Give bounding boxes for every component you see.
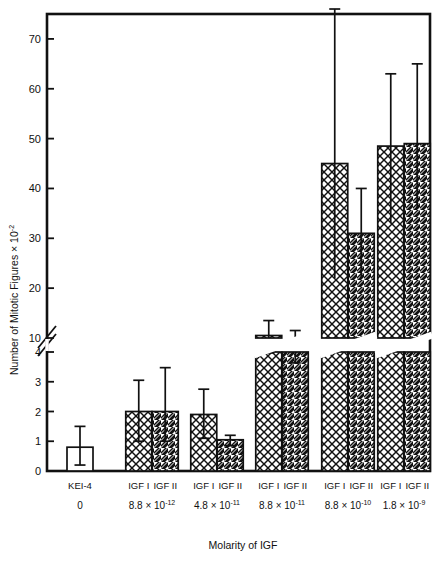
- x-axis-title: Molarity of IGF: [209, 539, 278, 551]
- y-tick-label: 50: [29, 133, 41, 145]
- group-molarity-label: 8.8 × 10-12: [129, 499, 176, 511]
- y-tick-label: 60: [29, 83, 41, 95]
- bar-segment: [404, 352, 430, 471]
- bar-series-label: IGF II: [349, 480, 373, 491]
- bar-series-label: IGF I: [193, 480, 214, 491]
- bar-series-label: IGF II: [153, 480, 177, 491]
- y-tick-label: 2: [35, 406, 41, 418]
- bar-diagonal: [282, 352, 308, 471]
- y-tick-label: 40: [29, 182, 41, 194]
- bar-series-label: IGF II: [405, 480, 429, 491]
- bar-series-label: KEI-4: [68, 480, 92, 491]
- bar-segment: [378, 352, 404, 471]
- group-molarity-label: 8.8 × 10-10: [325, 499, 372, 511]
- group-molarity-label: 1.8 × 10-9: [383, 499, 426, 511]
- x-axis-labels: KEI-40IGF IIGF II8.8 × 10-12IGF IIGF II4…: [68, 480, 429, 511]
- bar-series-label: IGF II: [218, 480, 242, 491]
- bar-series-label: IGF II: [283, 480, 307, 491]
- group-molarity-label: 8.8 × 10-11: [259, 499, 305, 511]
- y-tick-label: 0: [35, 465, 41, 477]
- bar-series-label: IGF I: [380, 480, 401, 491]
- bar-segment: [282, 352, 308, 471]
- group-molarity-label: 0: [77, 500, 83, 511]
- bar-chart-canvas: 0123410203040506070 KEI-40IGF IIGF II8.8…: [0, 0, 440, 562]
- y-tick-label: 3: [35, 376, 41, 388]
- chart-figure: 0123410203040506070 KEI-40IGF IIGF II8.8…: [0, 0, 440, 562]
- y-tick-label: 4: [35, 346, 41, 358]
- bar-segment: [256, 352, 282, 471]
- group-molarity-label: 4.8 × 10-11: [194, 499, 240, 511]
- bar-segment: [322, 352, 348, 471]
- bar-series-label: IGF I: [324, 480, 345, 491]
- y-tick-label: 70: [29, 33, 41, 45]
- y-tick-label: 1: [35, 435, 41, 447]
- bars-layer: [67, 9, 430, 471]
- bar-segment: [348, 352, 374, 471]
- bar-series-label: IGF I: [258, 480, 279, 491]
- bar-series-label: IGF I: [128, 480, 149, 491]
- y-tick-label: 20: [29, 282, 41, 294]
- y-axis-title: Number of Mitotic Figures × 10-2: [8, 225, 20, 375]
- svg-text:Number of Mitotic Figures × 10: Number of Mitotic Figures × 10-2: [8, 225, 20, 375]
- y-tick-label: 10: [29, 332, 41, 344]
- y-tick-label: 30: [29, 232, 41, 244]
- y-axis-ticks: 0123410203040506070: [29, 33, 54, 477]
